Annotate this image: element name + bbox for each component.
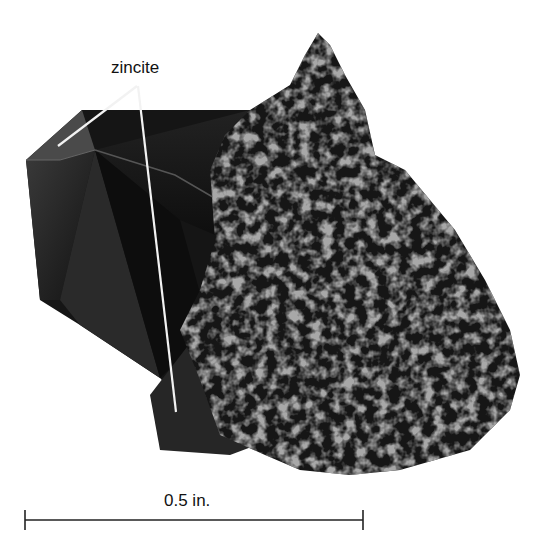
specimen-photo xyxy=(0,0,550,552)
scale-bar xyxy=(25,510,363,530)
mineral-label: zincite xyxy=(111,58,159,78)
figure: zincite 0.5 in. xyxy=(0,0,550,552)
scale-label: 0.5 in. xyxy=(164,491,210,511)
host-rock xyxy=(180,33,520,475)
